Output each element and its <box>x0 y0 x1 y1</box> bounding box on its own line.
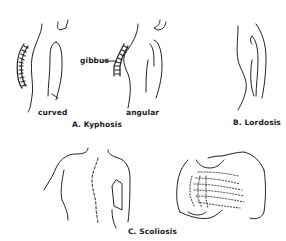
rib-hump-dotted-lines <box>190 172 244 208</box>
kyphosis-angular-figure <box>104 20 166 108</box>
angular-label: angular <box>126 108 159 117</box>
angular-spine-vertebrae <box>114 44 128 76</box>
curved-spine-vertebrae <box>17 44 28 88</box>
kyphosis-curved-figure <box>17 20 68 112</box>
scoliosis-caption: C. Scoliosis <box>128 227 177 236</box>
gibbus-label: gibbus <box>80 56 109 65</box>
kyphosis-caption: A. Kyphosis <box>72 120 122 129</box>
scoliosis-back-figure <box>44 148 130 228</box>
lordosis-figure <box>237 24 266 110</box>
scoliosis-forward-bend-figure <box>177 152 266 219</box>
curved-label: curved <box>38 108 67 117</box>
lordosis-caption: B. Lordosis <box>233 118 281 127</box>
